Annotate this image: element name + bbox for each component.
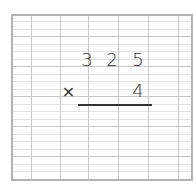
multiplier-digit-ones: 4	[131, 82, 145, 100]
grid-row-line	[13, 59, 191, 60]
grid-row-line	[13, 149, 191, 150]
multiplicand-digit-tens: 2	[105, 51, 119, 69]
multiplicand-digit-ones: 5	[131, 51, 145, 69]
grid-paper	[11, 14, 193, 181]
grid-col-line	[118, 16, 120, 179]
grid-row-line	[13, 141, 191, 142]
grid-row-line-major	[13, 126, 191, 127]
grid-row-line-major	[13, 66, 191, 67]
grid-row-line	[13, 89, 191, 90]
grid-col-line	[148, 16, 150, 179]
grid-row-line	[13, 29, 191, 30]
answer-underline	[78, 104, 152, 106]
grid-row-line-major	[13, 156, 191, 157]
grid-row-line	[13, 51, 191, 52]
grid-row-line	[13, 171, 191, 172]
grid-row-line	[13, 164, 191, 165]
grid-row-line-major	[13, 36, 191, 37]
grid-row-line	[13, 119, 191, 120]
grid-row-line	[13, 134, 191, 135]
grid-row-line	[13, 111, 191, 112]
grid-row-line	[13, 44, 191, 45]
grid-row-line-major	[13, 96, 191, 97]
multiplicand-digit-hundreds: 3	[80, 51, 94, 69]
multiply-operator-icon: ×	[62, 83, 76, 101]
grid-row-line	[13, 21, 191, 22]
grid-row-line	[13, 74, 191, 75]
grid-col-line	[178, 16, 180, 179]
grid-row-line	[13, 81, 191, 82]
grid-col-line	[31, 16, 33, 179]
grid-col-line	[88, 16, 90, 179]
